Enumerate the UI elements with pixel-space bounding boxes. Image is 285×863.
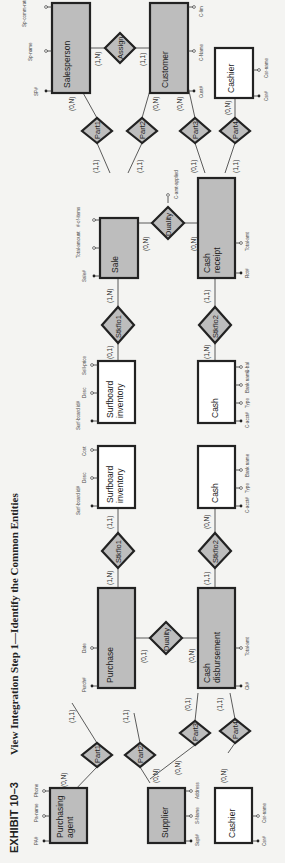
svg-text:Stkflo1: Stkflo1 xyxy=(114,540,123,563)
svg-text:(1,1): (1,1) xyxy=(106,516,114,529)
relationship-part2-right[interactable]: Part2 (1,1) (0,N) xyxy=(127,97,160,173)
relationship-assign[interactable]: Assign (1,N) (1,1) xyxy=(94,33,147,66)
entity-cash-receipt[interactable]: Cash receipt Rct# Total-amt xyxy=(198,178,250,278)
svg-text:(0,N): (0,N) xyxy=(220,769,228,783)
svg-text:Desc: Desc xyxy=(82,472,87,483)
svg-text:Sell-price: Sell-price xyxy=(82,355,87,375)
svg-text:Rct#: Rct# xyxy=(245,268,250,278)
svg-text:(1,1): (1,1) xyxy=(216,698,224,711)
svg-text:Supplier: Supplier xyxy=(160,807,170,838)
svg-text:Total-amount: Total-amount xyxy=(76,231,81,258)
svg-text:(0,N): (0,N) xyxy=(68,97,76,111)
svg-text:Supl#: Supl# xyxy=(195,834,200,846)
svg-text:(0,N): (0,N) xyxy=(142,237,150,251)
svg-text:C-acct#: C-acct# xyxy=(245,412,250,428)
entity-cash-disbursement[interactable]: Cash disbursement Ck# Total-amt xyxy=(198,588,250,690)
entity-supplier[interactable]: Supplier Supl# S-Name Address xyxy=(148,781,200,846)
relationship-duality-right[interactable]: Duality (0,N) (0,N) C-amt-applied xyxy=(142,170,198,251)
svg-text:Purchase: Purchase xyxy=(105,647,115,683)
svg-text:Cash: Cash xyxy=(210,483,220,503)
svg-text:Cost: Cost xyxy=(82,446,87,456)
svg-text:(1,1): (1,1) xyxy=(122,710,130,723)
svg-text:Part2: Part2 xyxy=(136,745,145,763)
entity-surfboard-inventory-right[interactable]: Surfboard inventory Surf-board id# Desc … xyxy=(76,355,135,430)
svg-text:Address: Address xyxy=(195,781,200,799)
svg-text:(1,N): (1,N) xyxy=(106,289,114,303)
svg-text:Sale: Sale xyxy=(110,256,120,273)
svg-text:Part1: Part1 xyxy=(93,745,102,763)
svg-text:Cashier: Cashier xyxy=(226,64,236,93)
svg-text:(1,1): (1,1) xyxy=(136,160,144,173)
entity-purchase[interactable]: Purchase Purch# Date xyxy=(82,588,135,692)
svg-text:Date: Date xyxy=(82,643,87,653)
er-diagram: EXHIBIT 10–3 View Integration Step 1—Ide… xyxy=(0,0,285,863)
svg-text:(1,N): (1,N) xyxy=(106,571,114,585)
svg-text:Ck#: Ck# xyxy=(245,681,250,690)
relationship-part2-left[interactable]: Part2 (0,N) (1,1) xyxy=(122,710,160,783)
entity-sale[interactable]: Sale Sale# Total-amount #-of-items xyxy=(76,206,138,282)
svg-text:(1,1): (1,1) xyxy=(68,710,76,723)
exhibit-caption: View Integration Step 1—Identify the Com… xyxy=(8,493,20,755)
svg-text:#-of-items: #-of-items xyxy=(76,206,81,227)
svg-text:Surfboard: Surfboard xyxy=(105,380,115,418)
svg-text:(0,N): (0,N) xyxy=(190,237,198,251)
svg-text:(0,N): (0,N) xyxy=(224,101,232,115)
entity-cash-left[interactable]: Cash C-acct# Type Bank name xyxy=(198,446,250,513)
svg-text:Part4: Part4 xyxy=(231,121,240,139)
svg-text:Part3: Part3 xyxy=(191,121,200,139)
exhibit-title: EXHIBIT 10–3 View Integration Step 1—Ide… xyxy=(8,493,20,853)
entity-cashier-right[interactable]: Cashier Csr# Csr-name xyxy=(215,48,269,101)
svg-text:Stkflo2: Stkflo2 xyxy=(211,315,220,338)
svg-text:Type: Type xyxy=(245,398,250,408)
entity-purchasing-agent[interactable]: Purchasing agent PA# Pa-name Phone xyxy=(34,783,87,845)
svg-text:Customer: Customer xyxy=(160,51,170,88)
svg-text:Cash: Cash xyxy=(210,398,220,418)
svg-text:Surf-board id#: Surf-board id# xyxy=(76,400,81,430)
svg-text:agent: agent xyxy=(65,816,75,838)
entity-cash-right[interactable]: Cash C-acct# Type Bank name C-bal xyxy=(198,361,250,428)
svg-text:(1,1): (1,1) xyxy=(139,53,147,66)
svg-text:(0,1): (0,1) xyxy=(106,346,114,359)
svg-text:(1,N): (1,N) xyxy=(203,345,211,359)
svg-text:Csr#: Csr# xyxy=(262,836,267,846)
svg-text:Sp-comm-rate: Sp-comm-rate xyxy=(22,0,27,27)
svg-text:Type: Type xyxy=(245,483,250,493)
relationship-duality-left[interactable]: Duality (0,1) (0,N) xyxy=(140,622,196,663)
svg-text:inventory: inventory xyxy=(115,468,125,503)
exhibit-number: EXHIBIT 10–3 xyxy=(8,782,20,853)
svg-text:Salesperson: Salesperson xyxy=(62,40,72,88)
svg-text:Bank name: Bank name xyxy=(245,453,250,477)
svg-text:Assign: Assign xyxy=(116,36,125,59)
svg-text:S-Name: S-Name xyxy=(195,807,200,824)
svg-text:receipt: receipt xyxy=(212,247,222,273)
svg-text:Stkflo1: Stkflo1 xyxy=(114,315,123,338)
svg-text:Sale#: Sale# xyxy=(82,270,87,282)
relationship-part1-left[interactable]: Part1 (0,N) (1,1) xyxy=(60,710,112,787)
entity-cashier-left[interactable]: Cashier Csr# Csr-name xyxy=(215,788,267,846)
entity-surfboard-inventory-left[interactable]: Surfboard inventory Surf-board id# Desc … xyxy=(76,446,135,515)
svg-text:Duality: Duality xyxy=(164,213,173,236)
svg-text:(1,N): (1,N) xyxy=(94,52,102,66)
svg-text:(1,1): (1,1) xyxy=(232,160,240,173)
entity-customer[interactable]: Customer Cust# C-Name C-lim xyxy=(150,3,204,98)
svg-text:(0,N): (0,N) xyxy=(188,649,196,663)
svg-text:(0,1): (0,1) xyxy=(184,698,192,711)
svg-text:(0,N): (0,N) xyxy=(152,97,160,111)
svg-text:(0,1): (0,1) xyxy=(190,160,198,173)
svg-text:C-bal: C-bal xyxy=(245,362,250,373)
svg-text:Csr#: Csr# xyxy=(264,91,269,101)
svg-text:SP#: SP# xyxy=(34,87,39,96)
svg-text:inventory: inventory xyxy=(115,383,125,418)
svg-text:C-Name: C-Name xyxy=(199,43,204,61)
svg-text:Part2: Part2 xyxy=(138,121,147,139)
svg-text:C-acct#: C-acct# xyxy=(245,497,250,513)
svg-text:Purchasing: Purchasing xyxy=(55,795,65,838)
relationship-part3-left[interactable]: Part3 (0,N) (0,1) xyxy=(174,698,210,775)
entity-salesperson[interactable]: Salesperson SP# Sp-name Sp-comm-rate xyxy=(22,0,90,96)
svg-text:(0,N): (0,N) xyxy=(176,97,184,111)
svg-text:(1,1): (1,1) xyxy=(203,290,211,303)
svg-text:Part4: Part4 xyxy=(231,721,240,739)
svg-text:Surfboard: Surfboard xyxy=(105,465,115,503)
svg-text:Part3: Part3 xyxy=(191,723,200,741)
svg-text:Surf-board id#: Surf-board id# xyxy=(76,485,81,515)
